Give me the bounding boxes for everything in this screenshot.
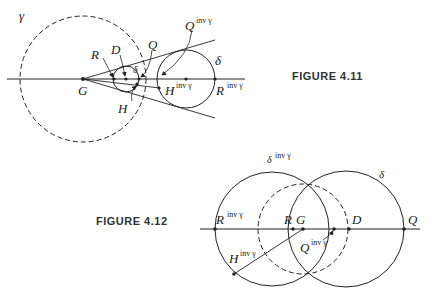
label-H-inv-sup: inv γ	[240, 249, 256, 258]
tangent-lower	[83, 79, 215, 118]
label-delta: δ	[215, 53, 222, 68]
label-Q-inv-sup: inv γ	[311, 238, 327, 247]
label-H: H	[117, 101, 128, 116]
label-G: G	[78, 83, 88, 98]
label-R-inv-sup: inv γ	[227, 210, 243, 219]
figure-caption: FIGURE 4.12	[96, 215, 168, 227]
label-delta-inv-sup: inv γ	[275, 151, 291, 160]
label-delta: δ	[379, 168, 385, 180]
figure-caption: FIGURE 4.11	[292, 70, 363, 82]
label-H-inv: H	[164, 83, 175, 98]
diagram-canvas: γ R D Q δ G H Q inv γ δ H inv γ R inv γ …	[0, 0, 430, 305]
label-R: R	[283, 212, 292, 227]
label-Q-inv: Q	[185, 18, 195, 33]
figure-4-11: γ R D Q δ G H Q inv γ δ H inv γ R inv γ …	[7, 8, 363, 142]
label-R-inv: R	[215, 212, 224, 227]
label-G: G	[296, 212, 306, 227]
label-H-inv-sup: inv γ	[176, 81, 192, 90]
label-delta-small: δ	[133, 64, 138, 75]
label-H-inv: H	[228, 251, 239, 266]
label-Q: Q	[408, 212, 418, 227]
label-D: D	[110, 42, 121, 57]
label-Q-inv-sup: inv γ	[196, 16, 212, 25]
label-R: R	[90, 47, 99, 62]
label-Q-inv: Q	[300, 240, 310, 255]
figure-4-12: δ inv γ δ R inv γ R G D Q Q inv γ H inv …	[96, 151, 420, 287]
label-Q: Q	[148, 37, 158, 52]
label-delta-inv: δ	[267, 154, 272, 165]
label-D: D	[351, 212, 362, 227]
label-R-inv: R	[215, 83, 224, 98]
label-R-inv-sup: inv γ	[227, 81, 243, 90]
label-gamma: γ	[19, 8, 25, 23]
line-G-H	[83, 79, 160, 88]
